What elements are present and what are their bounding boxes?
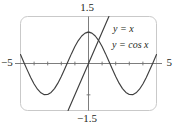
line-equation-label: y = x <box>113 24 134 34</box>
y-min-label: −1.5 <box>0 113 174 124</box>
y-max-label: 1.5 <box>0 2 174 13</box>
plot-canvas <box>0 0 174 128</box>
x-max-label: 5 <box>167 57 173 68</box>
cosine-equation-label: y = cos x <box>112 40 148 50</box>
x-min-label: −5 <box>1 57 13 68</box>
graph-figure: 1.5 −1.5 −5 5 y = x y = cos x <box>0 0 174 128</box>
